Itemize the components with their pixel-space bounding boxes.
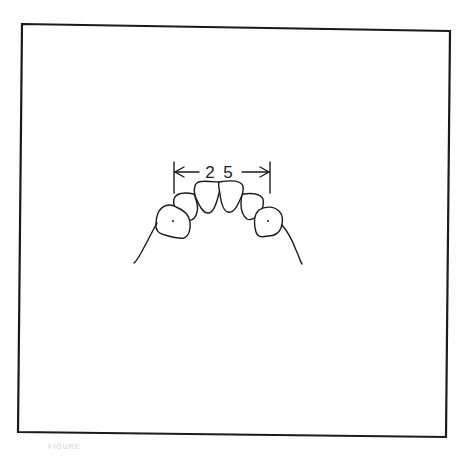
tooth-left-central-incisor	[219, 181, 244, 212]
teeth	[156, 181, 282, 238]
dental-arch-diagram: 2 5	[0, 0, 472, 457]
left-canine-center-dot	[267, 220, 269, 222]
tooth-left-canine	[255, 207, 283, 237]
right-arch-line	[134, 223, 157, 263]
left-arch-line	[282, 225, 302, 264]
figure-frame	[18, 24, 450, 437]
figure-caption: FIGURE	[48, 443, 80, 450]
right-canine-center-dot	[172, 220, 174, 222]
tooth-right-central-incisor	[194, 181, 220, 213]
dimension-label: 2 5	[205, 163, 235, 182]
